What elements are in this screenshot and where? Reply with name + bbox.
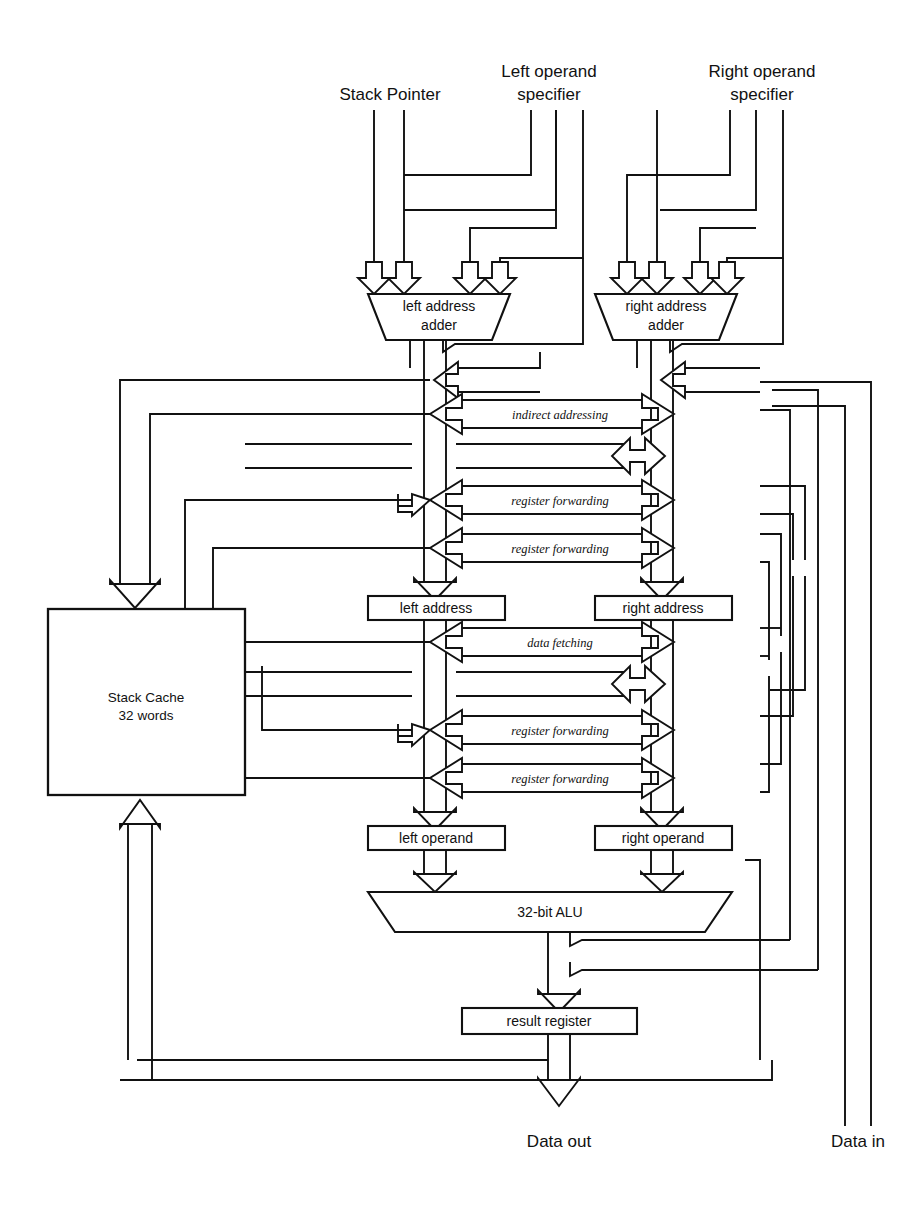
feedback-row-indirect-addressing: indirect addressing [430,394,674,434]
right-address-box: right address [595,596,732,620]
feedback-row-right-pointing-2 [456,666,665,702]
alu-block: 32-bit ALU [368,892,732,932]
alu-output-wires [538,932,818,1012]
left-operand-box: left operand [368,826,505,850]
input-labels: Stack Pointer Left operand specifier Rig… [339,62,815,104]
stack-cache-label-line1: Stack Cache [108,690,185,705]
left-address-adder-label-2: adder [421,317,457,333]
data-in-wires: Data in [760,382,885,1151]
path-label-register-forwarding-1: register forwarding [511,494,608,508]
right-operand-specifier-label-2: specifier [730,85,794,104]
right-routing-bus [745,390,818,1060]
adder-input-arrowheads [358,262,743,294]
right-operand-specifier-label-1: Right operand [709,62,816,81]
path-label-register-forwarding-3: register forwarding [511,724,608,738]
left-address-box: left address [368,596,505,620]
left-address-adder-label-1: left address [403,298,475,314]
left-operand-specifier-label-2: specifier [517,85,581,104]
alu-label: 32-bit ALU [517,904,582,920]
right-operand-label: right operand [622,830,705,846]
data-in-label: Data in [831,1132,885,1151]
feedback-row-data-fetching: data fetching [430,622,674,662]
path-label-register-forwarding-4: register forwarding [511,772,608,786]
diagram-canvas: indirect addressing register forwarding … [0,0,917,1221]
left-operand-specifier-wires [404,110,583,262]
path-label-indirect-addressing: indirect addressing [512,408,608,422]
right-operand-box: right operand [595,826,732,850]
right-address-adder-label-2: adder [648,317,684,333]
feedback-row-register-forwarding-4: register forwarding [430,758,674,798]
datapath-diagram: indirect addressing register forwarding … [0,0,917,1221]
stack-cache-box: Stack Cache 32 words [48,609,245,795]
path-label-data-fetching: data fetching [527,636,593,650]
data-out-label: Data out [527,1132,592,1151]
feedback-row-indirect-top [434,352,760,398]
stack-cache-input-arrow [110,580,160,608]
stack-cache-return-arrow [120,800,160,1080]
feedback-row-register-forwarding-2: register forwarding [430,528,674,568]
right-address-label: right address [623,600,704,616]
stack-pointer-label: Stack Pointer [339,85,440,104]
stack-cache-label-line2: 32 words [119,708,174,723]
left-operand-label: left operand [399,830,473,846]
stack-pointer-wires [374,110,404,262]
result-output-wires: Data out [120,1034,772,1151]
left-operand-specifier-label-1: Left operand [501,62,596,81]
result-register-label: result register [507,1013,592,1029]
feedback-row-register-forwarding-1: register forwarding [430,480,674,520]
feedback-row-right-pointing-1 [456,438,665,474]
feedback-row-register-forwarding-3: register forwarding [430,710,674,750]
path-label-register-forwarding-2: register forwarding [511,542,608,556]
left-address-label: left address [400,600,472,616]
right-operand-specifier-wires [627,110,783,262]
result-register-box: result register [462,1008,637,1034]
right-address-adder-label-1: right address [626,298,707,314]
